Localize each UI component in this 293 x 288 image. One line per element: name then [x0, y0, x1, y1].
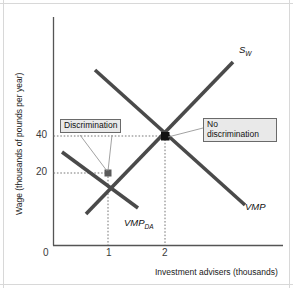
vmp-curve-label-main: VMP	[245, 201, 266, 212]
y-axis-title: Wage (thousands of pounds per year)	[15, 73, 24, 215]
x-axis-title: Investment advisers (thousands)	[155, 268, 278, 277]
vmp-da-curve-label-sub: DA	[145, 223, 154, 230]
supply-curve-label-sub: W	[245, 50, 251, 57]
y-tick-label-20: 20	[36, 167, 47, 178]
no-discrimination-equilibrium-marker	[161, 132, 170, 141]
discrimination-leader-line-1	[80, 135, 107, 171]
vmp-curve-label: VMP	[245, 202, 266, 212]
y-tick-label-0: 0	[43, 248, 49, 259]
y-tick-label-40: 40	[36, 130, 47, 141]
discrimination-leader-line-2	[108, 135, 112, 171]
vmp-da-curve-label: VMPDA	[124, 218, 154, 231]
x-tick-label-2: 2	[162, 248, 168, 259]
discrimination-callout: Discrimination	[60, 119, 121, 133]
chart-plot-area	[0, 0, 293, 288]
discrimination-callout-text: Discrimination	[64, 120, 117, 130]
no-discrimination-callout: Nodiscrimination	[203, 118, 277, 142]
figure-canvas: Wage (thousands of pounds per year) Inve…	[0, 0, 293, 288]
x-tick-label-1: 1	[106, 248, 112, 259]
vmp-da-curve-label-main: VMP	[124, 217, 145, 228]
no-discrimination-leader-line	[168, 128, 203, 137]
supply-curve-label: SW	[239, 45, 251, 58]
no-discrimination-callout-line2: discrimination	[207, 130, 273, 140]
